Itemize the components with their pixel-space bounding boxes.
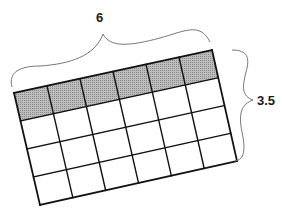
width-label: 6 — [96, 10, 103, 25]
height-label: 3.5 — [257, 93, 275, 108]
height-brace — [232, 50, 253, 161]
grid-diagram: 6 3.5 — [0, 0, 282, 218]
